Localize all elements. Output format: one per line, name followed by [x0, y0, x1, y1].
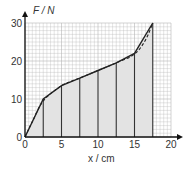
x-tick-label: 5 [59, 139, 65, 150]
y-tick-label: 10 [11, 94, 23, 105]
y-axis-label: F / N [33, 5, 55, 16]
y-axis-arrow-icon [22, 11, 28, 17]
x-tick-label: 10 [92, 139, 104, 150]
x-tick-label: 15 [129, 139, 141, 150]
y-tick-label: 30 [11, 18, 23, 29]
y-tick-label: 0 [16, 132, 22, 143]
x-axis-arrow-icon [177, 134, 183, 140]
x-axis-label: x / cm [88, 153, 115, 164]
y-tick-label: 20 [11, 56, 23, 67]
x-tick-label: 0 [22, 139, 28, 150]
force-extension-chart: 051015200102030 F / N x / cm [0, 0, 187, 170]
x-tick-label: 20 [165, 139, 177, 150]
